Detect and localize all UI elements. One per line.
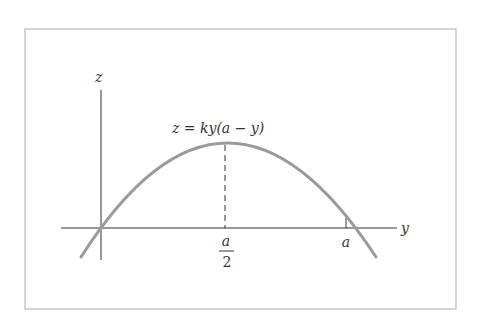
- y-axis-label: y: [400, 220, 410, 236]
- parabola-figure: z y z = ky(a − y) a 2 a: [0, 0, 480, 324]
- root-a-label: a: [342, 234, 350, 250]
- z-axis-label: z: [94, 69, 103, 85]
- midpoint-denominator: 2: [223, 254, 232, 270]
- figure-frame: [25, 29, 456, 309]
- equation-label: z = ky(a − y): [171, 120, 264, 136]
- midpoint-numerator: a: [222, 233, 230, 249]
